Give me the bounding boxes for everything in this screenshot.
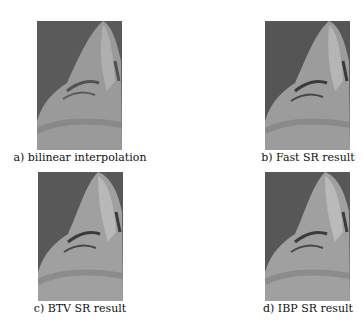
bilinear-interpolation-image	[37, 21, 122, 150]
caption-d: d) IBP SR result	[263, 302, 353, 315]
ibp-sr-result-image	[265, 172, 350, 301]
btv-sr-result-image	[38, 172, 123, 301]
caption-c: c) BTV SR result	[34, 302, 127, 315]
caption-b: b) Fast SR result	[261, 151, 355, 164]
caption-a: a) bilinear interpolation	[13, 151, 146, 164]
fast-sr-result-image	[265, 21, 350, 150]
